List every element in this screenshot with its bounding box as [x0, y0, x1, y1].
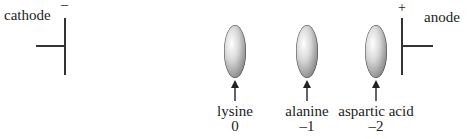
cathode-vertical-line	[64, 18, 66, 75]
aspartic-acid-spot	[365, 25, 387, 78]
alanine-spot	[296, 25, 318, 78]
lysine-label: lysine	[217, 104, 253, 119]
alanine-label: alanine	[285, 104, 328, 119]
lysine-charge: 0	[231, 119, 239, 134]
aspartic-acid-charge: –2	[369, 119, 384, 134]
arrow-up-icon	[229, 80, 241, 102]
cathode-label: cathode	[4, 8, 51, 23]
anode-label: anode	[424, 10, 460, 25]
lysine-spot	[224, 25, 246, 78]
alanine-charge: –1	[300, 119, 315, 134]
anode-vertical-line	[401, 18, 403, 75]
cathode-sign: –	[61, 0, 68, 12]
anode-horizontal-line	[401, 45, 433, 47]
arrow-up-icon	[370, 80, 382, 102]
arrow-up-icon	[301, 80, 313, 102]
anode-sign: +	[398, 1, 406, 15]
cathode-horizontal-line	[36, 45, 65, 47]
aspartic-acid-label: aspartic acid	[338, 104, 413, 119]
